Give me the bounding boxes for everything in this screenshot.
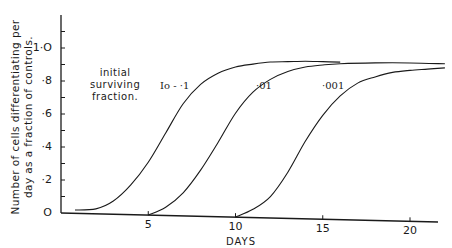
y-tick-label: 1·O <box>32 41 52 54</box>
chart: Number of cells differentiating per day … <box>0 0 452 248</box>
series-label-io-0.1: Io - ·1 <box>160 80 189 91</box>
annotation-initial-surviving-fraction: initial surviving fraction. <box>90 67 140 103</box>
x-axis-label: DAYS <box>226 236 256 247</box>
x-axis <box>61 213 438 222</box>
chart-plot-area <box>0 0 452 248</box>
x-tick-label: 20 <box>400 224 420 237</box>
series-label-0.01: ·01 <box>256 80 272 91</box>
annotation-line-1: initial <box>90 67 140 79</box>
x-tick-label: 10 <box>226 220 246 233</box>
y-tick-label: ·2 <box>32 173 52 186</box>
y-tick-label: ·4 <box>32 140 52 153</box>
series-label-0.001: ·001 <box>322 80 344 91</box>
x-tick-label: 5 <box>138 218 158 231</box>
annotation-line-3: fraction. <box>90 91 140 103</box>
x-tick-label: 15 <box>313 222 333 235</box>
series-line <box>148 63 445 215</box>
y-tick-label: O <box>32 206 52 219</box>
y-tick-label: ·8 <box>32 74 52 87</box>
annotation-line-2: surviving <box>90 79 140 91</box>
y-axis-label-line-1: Number of cells differentiating per <box>9 17 22 217</box>
y-tick-label: ·6 <box>32 107 52 120</box>
